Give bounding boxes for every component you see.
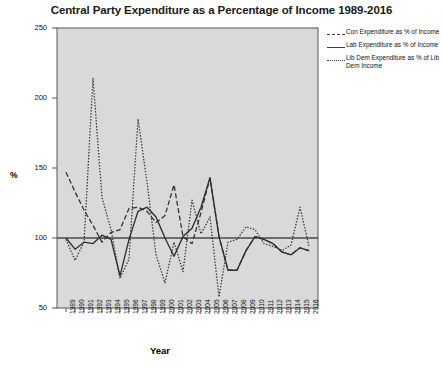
x-tick-label: 2007 bbox=[231, 299, 238, 314]
x-tick-label: 2002 bbox=[186, 299, 193, 314]
x-tick-label: 2016 bbox=[312, 299, 319, 314]
x-tick-label: 1999 bbox=[159, 299, 166, 314]
y-tick-label: 50 bbox=[21, 303, 47, 312]
x-tick-label: 2013 bbox=[285, 299, 292, 314]
x-tick-label: 2010 bbox=[258, 299, 265, 314]
legend-line-dotted-icon bbox=[326, 56, 346, 65]
x-tick-label: 2012 bbox=[276, 299, 283, 314]
legend-line-dashed-icon bbox=[326, 30, 346, 39]
x-tick-label: 1997 bbox=[141, 299, 148, 314]
chart-legend: Con Expenditure as % of Income Lab Expen… bbox=[326, 28, 442, 71]
x-tick-label: 2011 bbox=[267, 300, 274, 314]
x-tick-label: 2009 bbox=[249, 299, 256, 314]
x-tick-label: 2014 bbox=[294, 299, 301, 314]
y-tick-label: 150 bbox=[21, 163, 47, 172]
x-tick-label: 1991 bbox=[87, 299, 94, 314]
x-tick-label: 1993 bbox=[105, 299, 112, 314]
x-tick-label: 2000 bbox=[168, 299, 175, 314]
x-tick-label: 1996 bbox=[132, 299, 139, 314]
x-tick-label: 1994 bbox=[114, 299, 121, 314]
x-tick-label: 1990 bbox=[78, 299, 85, 314]
x-tick-label: 2001 bbox=[177, 299, 184, 314]
y-tick-label: 250 bbox=[21, 23, 47, 32]
legend-label-lab: Lab Expenditure as % of Income bbox=[346, 41, 438, 49]
x-tick-label: 1998 bbox=[150, 299, 157, 314]
x-tick-label: 1989 bbox=[69, 299, 76, 314]
x-tick-label: 1995 bbox=[123, 299, 130, 314]
x-tick-label: 2003 bbox=[195, 299, 202, 314]
legend-item-lab[interactable]: Lab Expenditure as % of Income bbox=[326, 41, 442, 52]
legend-label-libdem: Lib Dem Expenditure as % of Lib Dem Inco… bbox=[346, 54, 440, 69]
legend-line-solid-icon bbox=[326, 43, 346, 52]
x-tick-label: 2004 bbox=[204, 299, 211, 314]
x-tick-label: 1992 bbox=[96, 299, 103, 314]
plot-background bbox=[57, 28, 318, 308]
legend-item-libdem[interactable]: Lib Dem Expenditure as % of Lib Dem Inco… bbox=[326, 54, 442, 69]
y-tick-label: 200 bbox=[21, 93, 47, 102]
x-tick-label: 2008 bbox=[240, 299, 247, 314]
y-tick-marks bbox=[52, 28, 57, 308]
x-tick-label: 2015 bbox=[303, 299, 310, 314]
y-tick-label: 100 bbox=[21, 233, 47, 242]
x-tick-label: 2006 bbox=[222, 299, 229, 314]
legend-item-con[interactable]: Con Expenditure as % of Income bbox=[326, 28, 442, 39]
x-tick-label: 2005 bbox=[213, 299, 220, 314]
chart-figure: Central Party Expenditure as a Percentag… bbox=[0, 0, 443, 367]
legend-label-con: Con Expenditure as % of Income bbox=[346, 28, 439, 36]
